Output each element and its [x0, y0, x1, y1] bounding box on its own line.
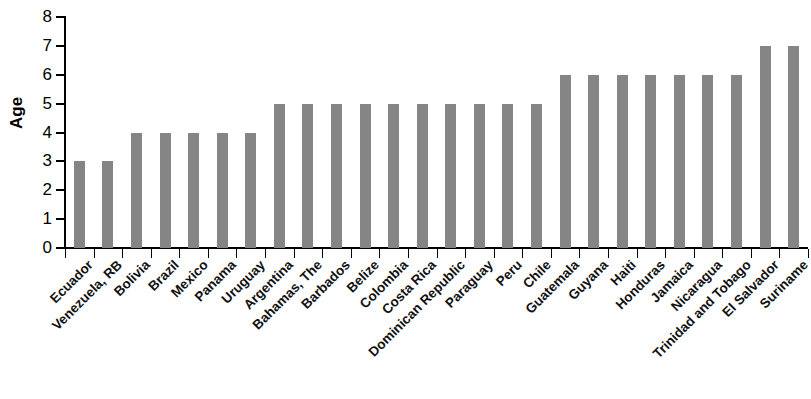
bar[interactable]	[331, 104, 342, 248]
x-axis-tick-label: Costa Rica	[380, 258, 439, 317]
x-axis-tick	[694, 249, 695, 258]
bar[interactable]	[102, 161, 113, 248]
x-axis-tick-label: Mexico	[168, 258, 210, 300]
x-axis-tick-label: Peru	[494, 258, 525, 289]
x-axis-tick-label: Dominican Republic	[366, 258, 467, 359]
bar[interactable]	[617, 75, 628, 248]
x-axis-tick	[179, 249, 180, 258]
x-axis-tick	[465, 249, 466, 258]
bar[interactable]	[502, 104, 513, 248]
x-axis-tick-label: Bolivia	[112, 258, 153, 299]
bar[interactable]	[302, 104, 313, 248]
bar[interactable]	[474, 104, 485, 248]
x-axis-tick	[579, 249, 580, 258]
x-axis-tick-label: Nicaragua	[669, 258, 725, 314]
x-axis-tick-label: Panama	[193, 258, 239, 304]
bar[interactable]	[360, 104, 371, 248]
x-axis-tick-label: Belize	[344, 258, 381, 295]
x-axis-tick	[208, 249, 209, 258]
x-axis-tick-label: Bahamas, The	[250, 258, 324, 332]
x-axis-tick	[122, 249, 123, 258]
x-axis-tick	[608, 249, 609, 258]
x-axis-tick	[637, 249, 638, 258]
x-axis-tick	[808, 249, 809, 258]
bar[interactable]	[160, 133, 171, 249]
x-axis-tick-label: Suriname	[757, 258, 810, 311]
x-axis-tick-label: Brazil	[146, 258, 182, 294]
x-axis-tick-label: Jamaica	[649, 258, 696, 305]
x-axis-tick	[751, 249, 752, 258]
x-axis-tick-label: Guyana	[566, 258, 611, 303]
bar[interactable]	[731, 75, 742, 248]
x-axis-tick	[722, 249, 723, 258]
x-axis-tick	[322, 249, 323, 258]
x-axis-tick-label: Honduras	[613, 258, 667, 312]
bar[interactable]	[788, 46, 799, 248]
x-axis-tick	[65, 249, 66, 258]
bar[interactable]	[388, 104, 399, 248]
x-axis-tick-label: El Salvador	[720, 258, 782, 320]
x-axis-tick	[408, 249, 409, 258]
bar[interactable]	[531, 104, 542, 248]
bar[interactable]	[274, 104, 285, 248]
x-axis-tick-label: Colombia	[357, 258, 410, 311]
x-axis-tick	[379, 249, 380, 258]
x-axis-tick-label: Barbados	[299, 258, 353, 312]
x-axis-tick	[236, 249, 237, 258]
x-axis-tick-label: Haiti	[609, 258, 639, 288]
x-axis-tick	[351, 249, 352, 258]
x-axis-tick	[551, 249, 552, 258]
x-axis-tick	[522, 249, 523, 258]
bar[interactable]	[417, 104, 428, 248]
x-axis-tick-label: Guatemala	[523, 258, 581, 316]
bar[interactable]	[760, 46, 771, 248]
x-axis-tick-label: Chile	[520, 258, 553, 291]
bar[interactable]	[74, 161, 85, 248]
x-axis-tick	[265, 249, 266, 258]
x-axis-tick-label: Uruguay	[219, 258, 267, 306]
x-axis-tick-label: Ecuador	[48, 258, 96, 306]
bars-container	[0, 0, 808, 248]
x-axis-tick-label: Trinidad and Tobago	[650, 258, 753, 361]
x-axis-tick	[151, 249, 152, 258]
bar[interactable]	[560, 75, 571, 248]
bar[interactable]	[188, 133, 199, 249]
x-axis-tick-label: Argentina	[242, 258, 296, 312]
x-axis-tick-label: Venezuela, RB	[50, 258, 125, 333]
bar[interactable]	[645, 75, 656, 248]
bar[interactable]	[588, 75, 599, 248]
bar[interactable]	[445, 104, 456, 248]
x-axis-tick-label: Paraguay	[443, 258, 496, 311]
x-axis-tick	[437, 249, 438, 258]
bar[interactable]	[217, 133, 228, 249]
x-axis-tick	[779, 249, 780, 258]
bar[interactable]	[245, 133, 256, 249]
x-axis-tick	[294, 249, 295, 258]
bar[interactable]	[131, 133, 142, 249]
x-axis-tick	[94, 249, 95, 258]
x-axis-tick	[494, 249, 495, 258]
x-axis-tick	[665, 249, 666, 258]
bar[interactable]	[674, 75, 685, 248]
bar[interactable]	[702, 75, 713, 248]
